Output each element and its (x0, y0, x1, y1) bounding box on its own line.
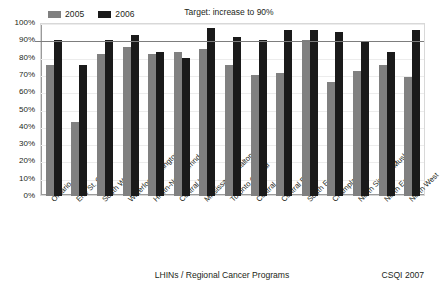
bar-2005 (199, 49, 207, 196)
bar-2006 (79, 65, 87, 196)
bar-2005 (97, 54, 105, 196)
y-tick-label: 0% (23, 192, 35, 200)
target-annotation: Target: increase to 90% (0, 8, 434, 17)
bar-group (374, 23, 400, 196)
bar-series-group (41, 23, 425, 196)
bar-2006 (284, 30, 292, 196)
bar-2006 (335, 32, 343, 196)
bar-2006 (182, 58, 190, 196)
source-label: CSQI 2007 (381, 271, 424, 280)
bar-group (399, 23, 425, 196)
bar-group (348, 23, 374, 196)
bar-2006 (207, 28, 215, 196)
bar-2005 (148, 54, 156, 196)
bar-group (143, 23, 169, 196)
bar-2006 (310, 30, 318, 196)
bar-2005 (71, 122, 79, 196)
x-axis-labels: OntarioErie St. ClairSouth WestWaterloo-… (41, 198, 425, 256)
bar-group (323, 23, 349, 196)
y-tick-label: 10% (19, 175, 35, 183)
bar-2006 (105, 40, 113, 196)
y-axis-labels: 100%90%80%70%60%50%40%30%20%10%0% (0, 23, 38, 196)
bar-2006 (259, 40, 267, 196)
bar-2005 (46, 65, 54, 196)
bar-2006 (54, 40, 62, 196)
bar-2005 (251, 75, 259, 196)
bar-2006 (233, 37, 241, 196)
bar-2005 (174, 52, 182, 196)
bar-group (271, 23, 297, 196)
bar-group (41, 23, 67, 196)
bar-2006 (156, 52, 164, 196)
y-tick-label: 30% (19, 140, 35, 148)
bar-group (297, 23, 323, 196)
bar-2005 (123, 47, 131, 196)
bar-2005 (404, 77, 412, 196)
bar-group (169, 23, 195, 196)
y-tick-label: 20% (19, 157, 35, 165)
bar-2005 (327, 82, 335, 196)
y-tick-label: 50% (19, 106, 35, 114)
bar-2006 (412, 30, 420, 196)
bar-2005 (353, 71, 361, 196)
bar-group (92, 23, 118, 196)
x-axis-title: LHINs / Regional Cancer Programs (0, 271, 434, 280)
y-tick-label: 80% (19, 54, 35, 62)
bar-group (118, 23, 144, 196)
bar-2006 (387, 52, 395, 196)
bar-2005 (302, 40, 310, 196)
bar-group (220, 23, 246, 196)
y-tick-label: 90% (19, 36, 35, 44)
bar-group (195, 23, 221, 196)
bar-2005 (379, 65, 387, 196)
y-tick-label: 40% (19, 123, 35, 131)
y-tick-label: 100% (15, 19, 35, 27)
bar-2005 (276, 73, 284, 196)
y-tick-label: 70% (19, 71, 35, 79)
target-line (35, 41, 424, 42)
bar-group (246, 23, 272, 196)
bar-2006 (131, 35, 139, 196)
bar-group (67, 23, 93, 196)
bar-2005 (225, 65, 233, 196)
bar-2006 (361, 42, 369, 196)
y-tick-label: 60% (19, 88, 35, 96)
